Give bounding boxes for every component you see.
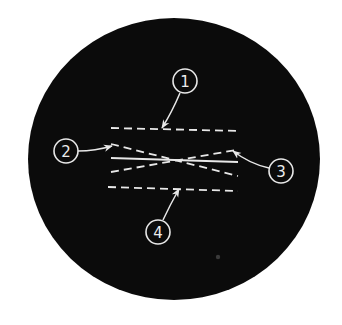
dust-speck bbox=[216, 255, 220, 259]
callout-number: 2 bbox=[61, 143, 71, 161]
callout-number: 3 bbox=[276, 163, 286, 181]
field-of-view-diagram: 1234 bbox=[0, 0, 342, 325]
callout-number: 4 bbox=[153, 224, 163, 242]
callout-number: 1 bbox=[180, 73, 190, 91]
